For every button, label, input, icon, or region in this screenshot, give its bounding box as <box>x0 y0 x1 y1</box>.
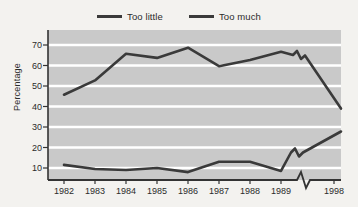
plot-area <box>0 0 358 207</box>
chart-container: Too little Too much Percentage 10 20 30 … <box>0 0 358 207</box>
